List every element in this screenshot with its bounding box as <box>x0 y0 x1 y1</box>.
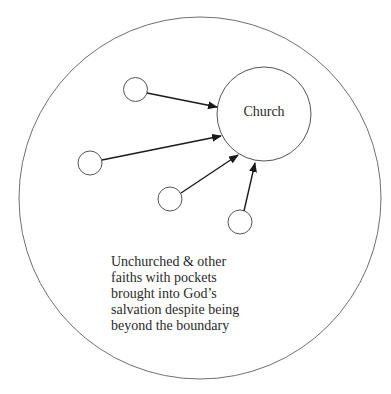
small-circle-node-4 <box>228 210 252 234</box>
caption-line: salvation despite being <box>111 302 261 318</box>
arrow-node-4-to-church <box>244 163 255 211</box>
caption-text: Unchurched & other faiths with pockets b… <box>111 254 261 334</box>
arrow-node-3-to-church <box>181 155 238 193</box>
caption-line: beyond the boundary <box>111 318 261 334</box>
caption-line: faiths with pockets <box>111 270 261 286</box>
arrow-node-1-to-church <box>147 93 217 107</box>
small-circle-node-3 <box>158 187 182 211</box>
caption-line: Unchurched & other <box>111 254 261 270</box>
small-circle-node-2 <box>78 151 102 175</box>
church-label: Church <box>217 104 311 120</box>
diagram-canvas <box>0 0 391 394</box>
small-circle-node-1 <box>124 78 148 102</box>
caption-line: brought into God’s <box>111 286 261 302</box>
arrow-node-2-to-church <box>102 136 221 160</box>
